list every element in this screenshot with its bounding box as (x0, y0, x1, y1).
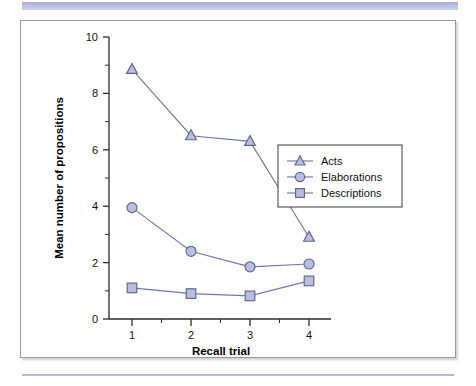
y-tick-label-6: 6 (92, 144, 98, 156)
series-descriptions (127, 276, 314, 301)
series-elaborations (127, 203, 314, 272)
legend-label-descriptions: Descriptions (321, 187, 382, 199)
marker-descriptions-trial-3 (245, 291, 255, 301)
marker-descriptions-trial-2 (186, 289, 196, 299)
y-tick-label-2: 2 (92, 257, 98, 269)
chart-legend: Acts Elaborations Descriptions (278, 145, 402, 207)
line-chart: 10 8 6 4 2 0 1 2 3 4 Recall trial Mean n… (21, 21, 455, 357)
marker-elaborations-trial-1 (127, 203, 137, 213)
x-axis-ticks: 1 2 3 4 (129, 319, 312, 341)
marker-descriptions-trial-4 (304, 276, 314, 286)
marker-acts-trial-3 (245, 135, 256, 145)
marker-acts-trial-1 (127, 63, 138, 73)
y-axis-title: Mean number of propositions (53, 97, 65, 259)
x-axis-title: Recall trial (192, 345, 250, 357)
series-descriptions-line (132, 281, 309, 296)
y-tick-label-10: 10 (86, 31, 98, 43)
x-tick-label-2: 2 (188, 329, 194, 341)
marker-descriptions-trial-1 (127, 283, 137, 293)
marker-elaborations-trial-3 (245, 262, 255, 272)
marker-elaborations-trial-4 (304, 259, 314, 269)
y-tick-label-0: 0 (92, 313, 98, 325)
marker-acts-trial-4 (304, 231, 315, 241)
x-tick-label-3: 3 (247, 329, 253, 341)
x-tick-label-1: 1 (129, 329, 135, 341)
series-elaborations-line (132, 208, 309, 267)
legend-label-elaborations: Elaborations (321, 171, 383, 183)
y-axis-ticks: 10 8 6 4 2 0 (86, 31, 109, 325)
bottom-divider-rule (22, 374, 454, 376)
x-tick-label-4: 4 (306, 329, 312, 341)
figure-card: 10 8 6 4 2 0 1 2 3 4 Recall trial Mean n… (20, 20, 456, 358)
marker-elaborations-trial-2 (186, 246, 196, 256)
decorative-top-band (22, 2, 458, 10)
legend-label-acts: Acts (321, 155, 343, 167)
legend-marker-descriptions (296, 189, 305, 198)
y-tick-label-4: 4 (92, 200, 98, 212)
legend-marker-elaborations (295, 172, 304, 181)
y-tick-label-8: 8 (92, 87, 98, 99)
